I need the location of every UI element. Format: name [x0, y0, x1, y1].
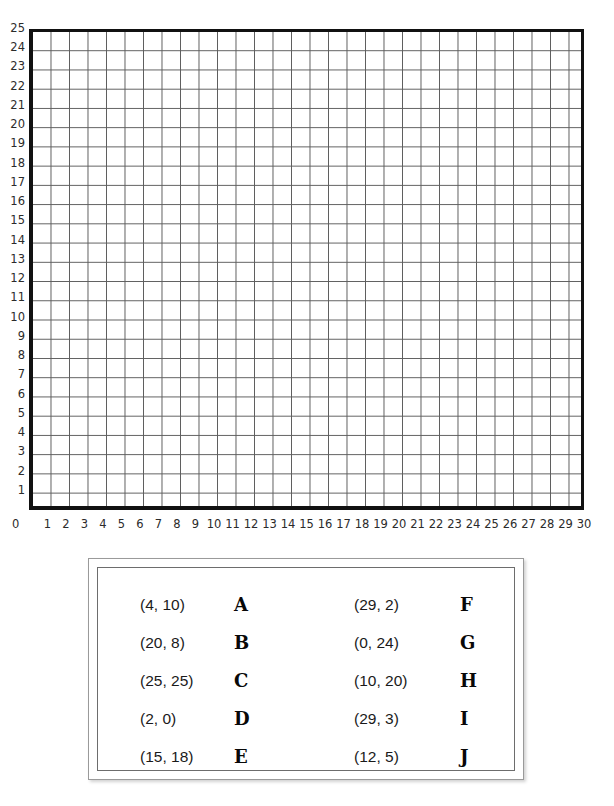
y-tick-3: 3: [18, 447, 25, 459]
x-tick-29: 29: [558, 519, 573, 531]
x-tick-6: 6: [136, 519, 143, 531]
legend-row: (4, 10)A(29, 2)F: [98, 586, 514, 624]
y-tick-14: 14: [10, 235, 25, 247]
y-tick-18: 18: [10, 158, 25, 170]
y-tick-25: 25: [10, 23, 25, 35]
x-tick-4: 4: [99, 519, 106, 531]
x-tick-10: 10: [207, 519, 222, 531]
legend-coordinate-F: (29, 2): [354, 586, 399, 624]
y-tick-17: 17: [10, 177, 25, 189]
coordinate-legend-box: (4, 10)A(29, 2)F(20, 8)B(0, 24)G(25, 25)…: [88, 558, 524, 780]
y-tick-21: 21: [10, 100, 25, 112]
legend-letter-J: J: [460, 738, 469, 776]
y-tick-7: 7: [18, 370, 25, 382]
legend-coordinate-B: (20, 8): [140, 624, 185, 662]
legend-coordinate-I: (29, 3): [354, 700, 399, 738]
x-tick-30: 30: [577, 519, 592, 531]
x-tick-8: 8: [173, 519, 180, 531]
legend-coordinate-D: (2, 0): [140, 700, 176, 738]
x-tick-15: 15: [299, 519, 314, 531]
x-tick-9: 9: [192, 519, 199, 531]
legend-letter-B: B: [234, 624, 249, 662]
y-tick-8: 8: [18, 350, 25, 362]
x-tick-21: 21: [410, 519, 425, 531]
legend-coordinate-C: (25, 25): [140, 662, 193, 700]
y-tick-24: 24: [10, 42, 25, 54]
legend-entries-grid: (4, 10)A(29, 2)F(20, 8)B(0, 24)G(25, 25)…: [98, 568, 514, 770]
legend-letter-A: A: [234, 586, 248, 624]
legend-letter-H: H: [460, 662, 477, 700]
legend-coordinate-E: (15, 18): [140, 738, 193, 776]
legend-coordinate-J: (12, 5): [354, 738, 399, 776]
graph-plot-area[interactable]: [29, 29, 584, 510]
legend-coordinate-H: (10, 20): [354, 662, 407, 700]
legend-coordinate-A: (4, 10): [140, 586, 185, 624]
legend-row: (2, 0)D(29, 3)I: [98, 700, 514, 738]
y-tick-5: 5: [18, 408, 25, 420]
x-tick-5: 5: [118, 519, 125, 531]
x-tick-26: 26: [503, 519, 518, 531]
legend-letter-C: C: [234, 662, 248, 700]
y-tick-15: 15: [10, 216, 25, 228]
legend-row: (20, 8)B(0, 24)G: [98, 624, 514, 662]
legend-coordinate-G: (0, 24): [354, 624, 399, 662]
x-tick-27: 27: [521, 519, 536, 531]
legend-letter-I: I: [460, 700, 468, 738]
x-tick-11: 11: [225, 519, 240, 531]
x-tick-17: 17: [336, 519, 351, 531]
y-tick-12: 12: [10, 273, 25, 285]
y-tick-22: 22: [10, 81, 25, 93]
y-tick-6: 6: [18, 389, 25, 401]
x-tick-20: 20: [392, 519, 407, 531]
x-tick-12: 12: [244, 519, 259, 531]
x-tick-3: 3: [81, 519, 88, 531]
x-tick-25: 25: [484, 519, 499, 531]
legend-letter-F: F: [460, 586, 473, 624]
y-tick-13: 13: [10, 254, 25, 266]
x-tick-14: 14: [281, 519, 296, 531]
x-tick-19: 19: [373, 519, 388, 531]
legend-letter-D: D: [234, 700, 250, 738]
y-tick-1: 1: [18, 485, 25, 497]
y-tick-19: 19: [10, 139, 25, 151]
x-tick-7: 7: [155, 519, 162, 531]
legend-row: (25, 25)C(10, 20)H: [98, 662, 514, 700]
x-tick-28: 28: [540, 519, 555, 531]
y-tick-4: 4: [18, 427, 25, 439]
legend-row: (15, 18)E(12, 5)J: [98, 738, 514, 776]
y-tick-20: 20: [10, 119, 25, 131]
x-tick-13: 13: [262, 519, 277, 531]
x-tick-23: 23: [447, 519, 462, 531]
y-tick-2: 2: [18, 466, 25, 478]
coordinate-graph-figure: 2524232221201918171615141312111098765432…: [0, 0, 614, 545]
x-tick-22: 22: [429, 519, 444, 531]
x-tick-1: 1: [44, 519, 51, 531]
legend-letter-E: E: [234, 738, 248, 776]
x-tick-18: 18: [355, 519, 370, 531]
y-tick-16: 16: [10, 196, 25, 208]
x-tick-2: 2: [62, 519, 69, 531]
y-tick-10: 10: [10, 312, 25, 324]
x-tick-16: 16: [318, 519, 333, 531]
y-tick-23: 23: [10, 62, 25, 74]
legend-inner-frame: (4, 10)A(29, 2)F(20, 8)B(0, 24)G(25, 25)…: [97, 567, 515, 771]
origin-tick-label: 0: [12, 519, 19, 531]
x-tick-24: 24: [466, 519, 481, 531]
y-tick-11: 11: [10, 293, 25, 305]
y-tick-9: 9: [18, 331, 25, 343]
legend-letter-G: G: [460, 624, 475, 662]
